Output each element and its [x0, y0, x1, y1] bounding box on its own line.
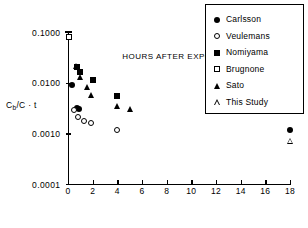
x-tick-14: 14	[241, 180, 242, 185]
x-tick-16: 16	[265, 180, 266, 185]
x-tick-label-2: 2	[90, 186, 95, 196]
data-point-nomiyama-2	[90, 77, 96, 83]
data-point-sato-0	[73, 63, 79, 69]
x-tick-label-6: 6	[139, 186, 144, 196]
x-tick-label-18: 18	[285, 186, 295, 196]
x-tick-label-16: 16	[260, 186, 270, 196]
legend-filled-triangle-icon	[214, 83, 220, 89]
x-tick-18: 18	[290, 180, 291, 185]
x-tick-label-0: 0	[65, 186, 70, 196]
data-point-this-study-0	[287, 138, 293, 144]
legend-marker-open-circle-icon	[206, 28, 226, 45]
legend-label: Nomiyama	[226, 47, 268, 57]
x-tick-label-8: 8	[164, 186, 169, 196]
data-point-brugnone-0	[66, 34, 72, 40]
x-axis-line	[68, 184, 290, 185]
legend-label: Veulemans	[226, 31, 270, 41]
data-point-carlsson-3	[287, 127, 293, 133]
legend-label: Sato	[226, 80, 244, 90]
legend-item-nomiyama[interactable]: Nomiyama	[206, 44, 303, 61]
x-tick-0: 0	[68, 180, 69, 185]
data-point-veulemans-2	[81, 118, 87, 124]
x-tick-4: 4	[117, 180, 118, 185]
error-bar-cap	[65, 31, 72, 32]
legend-marker-filled-triangle-icon	[206, 77, 226, 94]
legend-open-circle-icon	[214, 33, 220, 39]
legend-marker-open-triangle-icon	[206, 94, 226, 111]
x-tick-label-12: 12	[211, 186, 221, 196]
data-point-carlsson-0	[69, 82, 75, 88]
legend-item-veulemans[interactable]: Veulemans	[206, 28, 303, 45]
y-axis-title-subscript: b	[12, 104, 16, 111]
data-point-sato-1	[77, 74, 83, 80]
data-point-nomiyama-3	[114, 93, 120, 99]
data-point-veulemans-0	[71, 107, 77, 113]
legend-label: Carlsson	[226, 14, 261, 24]
legend-label: Brugnone	[226, 64, 264, 74]
y-tick-label-0.1000: 0.1000	[32, 28, 60, 38]
data-point-sato-3	[88, 92, 94, 98]
legend-box: CarlssonVeulemansNomiyamaBrugnoneSatoThi…	[205, 4, 304, 114]
legend-item-sato[interactable]: Sato	[206, 77, 303, 94]
x-tick-label-4: 4	[115, 186, 120, 196]
data-point-veulemans-3	[88, 120, 94, 126]
legend-open-square-icon	[214, 66, 220, 72]
y-axis-title: Cb/C · t	[6, 100, 37, 110]
x-tick-8: 8	[167, 180, 168, 185]
legend-label: This Study	[226, 97, 268, 107]
x-tick-label-14: 14	[236, 186, 246, 196]
legend-rows: CarlssonVeulemansNomiyamaBrugnoneSatoThi…	[206, 11, 303, 110]
legend-filled-square-icon	[214, 50, 220, 56]
x-tick-label-10: 10	[186, 186, 196, 196]
legend-marker-open-square-icon	[206, 61, 226, 78]
data-point-veulemans-4	[114, 127, 120, 133]
y-axis-title-rest: /C · t	[16, 100, 36, 110]
data-point-sato-2	[84, 84, 90, 90]
y-tick-label-0.0100: 0.0100	[32, 78, 60, 88]
legend-item-brugnone[interactable]: Brugnone	[206, 61, 303, 78]
y-tick-label-0.0010: 0.0010	[32, 129, 60, 139]
legend-marker-filled-circle-icon	[206, 11, 226, 28]
legend-marker-filled-square-icon	[206, 44, 226, 61]
legend-open-triangle-icon	[214, 99, 220, 105]
x-tick-12: 12	[216, 180, 217, 185]
y-tick-0.0010: 0.0010	[66, 133, 71, 134]
legend-item-this-study[interactable]: This Study	[206, 94, 303, 111]
legend-filled-circle-icon	[214, 17, 220, 23]
data-point-sato-4	[114, 103, 120, 109]
x-tick-6: 6	[142, 180, 143, 185]
y-tick-label-0.0001: 0.0001	[32, 180, 60, 190]
data-point-sato-5	[127, 106, 133, 112]
legend-item-carlsson[interactable]: Carlsson	[206, 11, 303, 28]
x-tick-2: 2	[93, 180, 94, 185]
scatter-chart-figure: Cb/C · t 0.10000.01000.00100.0001 024681…	[0, 0, 308, 228]
x-tick-10: 10	[191, 180, 192, 185]
